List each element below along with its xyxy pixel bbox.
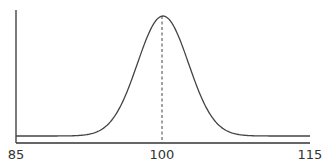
x-tick-label-85: 85 <box>8 147 25 161</box>
normal-distribution-chart: 85 100 115 <box>0 0 331 161</box>
x-tick-label-100: 100 <box>150 147 175 161</box>
x-tick-label-115: 115 <box>298 147 323 161</box>
bell-curve <box>16 16 310 136</box>
